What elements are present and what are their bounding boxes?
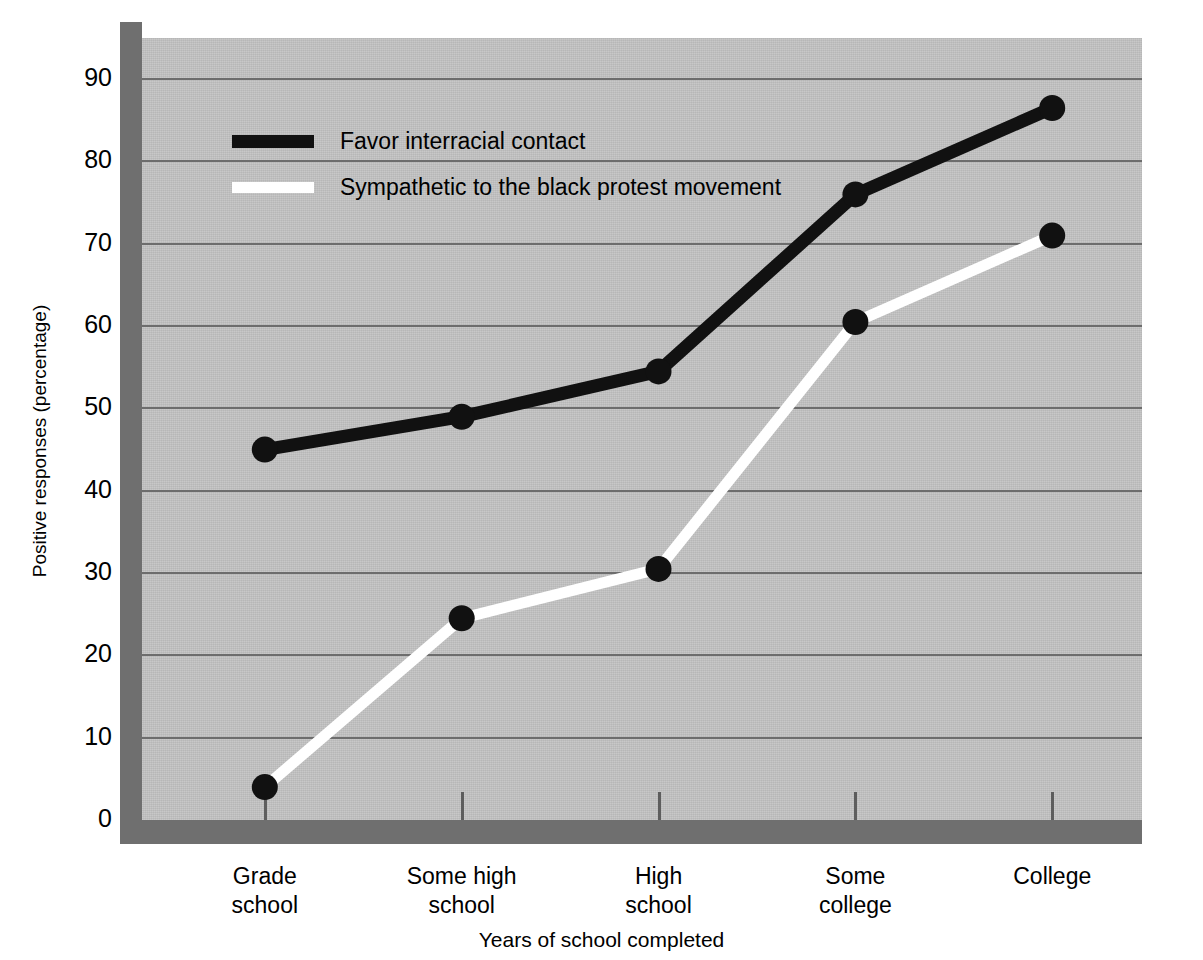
y-axis-tick-label: 40 xyxy=(60,475,112,504)
data-point-marker xyxy=(646,358,672,384)
x-axis-tick-label: Somecollege xyxy=(770,862,940,920)
legend: Favor interracial contact Sympathetic to… xyxy=(232,118,781,210)
y-axis-tick-label: 50 xyxy=(60,392,112,421)
x-axis-tick-label-line: school xyxy=(377,891,547,920)
x-axis-tick-label: Some highschool xyxy=(377,862,547,920)
x-axis-tick-label-line: college xyxy=(770,891,940,920)
x-axis-tick-label-line: High xyxy=(574,862,744,891)
y-axis-tick-label: 20 xyxy=(60,639,112,668)
figure: Positive responses (percentage) 01020304… xyxy=(0,0,1203,960)
legend-swatch-black-line-icon xyxy=(232,135,314,148)
x-axis-tick-label-line: school xyxy=(180,891,350,920)
frame-bottom-bevel xyxy=(120,820,1142,844)
legend-entry-sympathetic: Sympathetic to the black protest movemen… xyxy=(232,164,781,210)
data-point-marker xyxy=(646,556,672,582)
x-axis-tick-label-line: school xyxy=(574,891,744,920)
legend-label-favor: Favor interracial contact xyxy=(340,128,585,155)
x-axis-tick-label: College xyxy=(967,862,1137,891)
x-axis-tick-label-line: Some xyxy=(770,862,940,891)
plot-area: Favor interracial contact Sympathetic to… xyxy=(142,38,1142,820)
series-line xyxy=(265,236,1052,788)
data-point-marker xyxy=(449,605,475,631)
y-axis-tick-label: 60 xyxy=(60,310,112,339)
y-axis-title: Positive responses (percentage) xyxy=(29,231,51,651)
legend-entry-favor: Favor interracial contact xyxy=(232,118,781,164)
y-axis-tick-label: 70 xyxy=(60,228,112,257)
legend-swatch-white-line-icon xyxy=(232,182,314,193)
x-axis-tick-label-line: College xyxy=(967,862,1137,891)
frame-left-bevel xyxy=(120,22,142,842)
y-axis-tick-label: 30 xyxy=(60,557,112,586)
data-point-marker xyxy=(252,437,278,463)
y-axis-tick-label: 90 xyxy=(60,63,112,92)
x-axis-tick-label: Gradeschool xyxy=(180,862,350,920)
data-point-marker xyxy=(252,774,278,800)
x-axis-tick-label-line: Some high xyxy=(377,862,547,891)
data-point-marker xyxy=(842,181,868,207)
y-axis-tick-label: 10 xyxy=(60,722,112,751)
y-axis-tick-label: 0 xyxy=(60,804,112,833)
x-axis-tick-label: Highschool xyxy=(574,862,744,920)
data-point-marker xyxy=(1039,95,1065,121)
x-axis-tick-label-line: Grade xyxy=(180,862,350,891)
legend-label-sympathetic: Sympathetic to the black protest movemen… xyxy=(340,174,781,201)
data-point-marker xyxy=(449,404,475,430)
data-point-marker xyxy=(1039,223,1065,249)
data-point-marker xyxy=(842,309,868,335)
y-axis-tick-label: 80 xyxy=(60,145,112,174)
x-axis-title: Years of school completed xyxy=(0,928,1203,952)
